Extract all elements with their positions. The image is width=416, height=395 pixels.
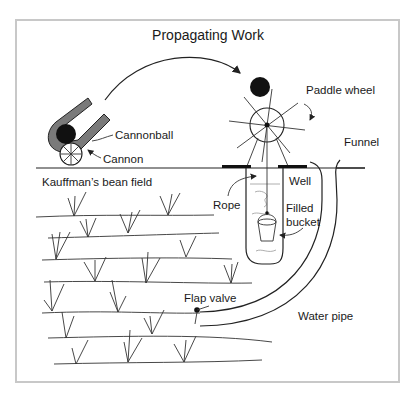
label-cannonball: Cannonball: [115, 129, 173, 141]
label-filled-bucket-2: bucket: [286, 216, 321, 228]
diagram-title: Propagating Work: [152, 27, 265, 43]
label-flap-valve: Flap valve: [184, 292, 236, 304]
label-paddle-wheel: Paddle wheel: [306, 84, 375, 96]
flap-valve-icon: [194, 306, 209, 324]
falling-cannonball-icon: [250, 77, 270, 97]
label-cannon: Cannon: [103, 153, 143, 165]
well-shaft: [246, 168, 283, 264]
trajectory-arrow: [105, 57, 240, 100]
label-well: Well: [289, 175, 311, 187]
label-water-pipe: Water pipe: [298, 310, 353, 322]
bucket-icon: [258, 211, 276, 241]
bean-plants: [44, 192, 238, 364]
label-filled-bucket-1: Filled: [286, 202, 313, 214]
label-funnel: Funnel: [344, 136, 379, 148]
bean-field-furrows: [36, 215, 272, 364]
rotation-arrow: [304, 104, 312, 120]
well-cover-left: [222, 165, 251, 168]
cannonball-icon: [56, 124, 76, 144]
label-bean-field: Kauffman’s bean field: [42, 176, 152, 188]
cannonball-leader: [92, 135, 113, 141]
well-cover-right: [278, 165, 307, 168]
rope-arrow: [228, 176, 256, 196]
cannon-arrow: [88, 150, 101, 158]
label-rope: Rope: [213, 199, 241, 211]
propagating-work-diagram: Propagating Work Cannonball Cannon: [0, 0, 416, 395]
